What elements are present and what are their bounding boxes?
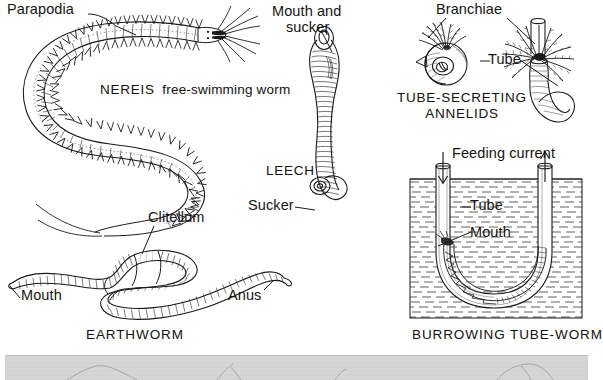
sucker-lower-label: Sucker: [248, 198, 294, 213]
nereis-caption: NEREIS free-swimming worm: [100, 82, 290, 98]
tube-secreting-caption-line1: TUBE-SECRETING: [392, 90, 532, 106]
earthworm-caption: EARTHWORM: [86, 327, 184, 343]
parapodia-label: Parapodia: [7, 2, 74, 17]
leech-figure: [295, 26, 375, 226]
parapodia-leader-line: [86, 10, 146, 38]
nereis-caption-name: NEREIS: [100, 82, 155, 97]
nereis-caption-desc: free-swimming worm: [162, 82, 290, 97]
burrowing-caption: BURROWING TUBE-WORM: [412, 327, 603, 343]
burrow-mouth-leader-line: [434, 230, 474, 252]
branchiae-left-leader-line: [424, 16, 452, 42]
burrow-tube-label: Tube: [470, 198, 503, 213]
clitellum-label: Clitellum: [148, 210, 205, 225]
mouth-and-label: Mouth and: [272, 4, 341, 19]
branchiae-label: Branchiae: [436, 2, 502, 17]
leech-mouth-leader-line: [320, 30, 350, 56]
tube-right-leader-line: [520, 58, 566, 90]
leech-sucker-leader-line: [295, 202, 323, 216]
burrow-mouth-label: Mouth: [470, 225, 511, 240]
earthworm-anus-label: Anus: [228, 288, 261, 303]
leech-caption: LEECH: [266, 163, 315, 179]
clitellum-leader-line: [138, 224, 162, 258]
burrow-tube-leader-line: [458, 202, 474, 214]
earthworm-anus-leader-line: [260, 278, 282, 296]
tube-secreting-caption-line2: ANNELIDS: [392, 106, 532, 122]
tube-left-leader-line: [478, 56, 494, 68]
next-panel-strip: [5, 355, 588, 380]
branchiae-right-leader-line: [505, 16, 545, 48]
earthworm-mouth-leader-line: [8, 284, 28, 302]
feeding-current-label: Feeding current: [452, 146, 555, 161]
